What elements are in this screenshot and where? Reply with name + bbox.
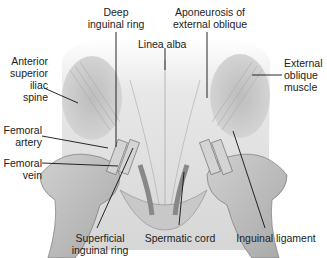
label-inguinal-ligament: Inguinal ligament [230,232,322,244]
left-external-oblique [62,56,122,140]
label-linea-alba: Linea alba [138,38,198,50]
label-aponeurosis: Aponeurosis of external oblique [168,6,252,30]
label-femoral-artery: Femoral artery [0,124,42,148]
label-femoral-vein: Femoral vein [0,157,42,181]
label-anterior-superior-iliac-spine: Anterior superior iliac spine [0,55,48,103]
anatomy-diagram: Deep inguinal ring Aponeurosis of extern… [0,0,327,258]
right-external-oblique [210,54,270,138]
label-spermatic-cord: Spermatic cord [140,232,220,244]
label-deep-inguinal-ring: Deep inguinal ring [78,6,154,30]
label-superficial-inguinal-ring: Superficial inguinal ring [60,232,140,256]
label-external-oblique-muscle: External oblique muscle [284,57,327,93]
